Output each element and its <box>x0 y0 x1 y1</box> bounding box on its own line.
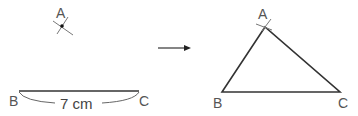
right-arrow-icon <box>158 45 191 51</box>
label-a-step1: A <box>56 5 66 21</box>
segment-length-label: 7 cm <box>60 95 93 112</box>
label-b-step1: B <box>9 93 18 109</box>
label-a-step2: A <box>258 6 268 22</box>
construction-diagram: A 7 cm B C A B C <box>0 0 358 116</box>
point-a-dot <box>60 24 64 28</box>
brace-right <box>102 92 139 103</box>
label-b-step2: B <box>213 95 222 111</box>
label-c-step1: C <box>139 93 149 109</box>
brace-left <box>19 92 55 103</box>
step1-figure: A 7 cm B C <box>9 5 149 112</box>
triangle-abc <box>222 27 340 92</box>
step2-triangle: A B C <box>213 6 348 111</box>
label-c-step2: C <box>338 95 348 111</box>
